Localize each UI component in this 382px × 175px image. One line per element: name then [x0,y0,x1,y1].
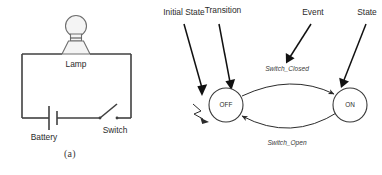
state-node-on-label: ON [345,101,355,108]
pointer-transition [219,24,235,90]
pointer-event [286,24,311,64]
state-node-on[interactable]: ON [333,88,367,122]
lamp-label: Lamp [66,59,87,69]
annotation-state-label: State [357,7,377,17]
pointer-state [339,24,366,88]
pointer-initial-state [184,24,207,96]
annotation-event-label: Event [302,7,324,17]
transition-label-switch-closed: Switch_Closed [265,65,309,72]
battery-symbol-icon [49,106,57,130]
battery-label: Battery [31,132,58,142]
state-machine-svg: Initial State Transition Event State OFF… [186,0,382,150]
switch-symbol-icon [99,104,119,119]
initial-state-squiggle-icon [193,104,209,124]
switch-label: Switch [103,125,128,135]
state-node-off-label: OFF [220,101,233,108]
figure-container: Lamp Battery Switch (a) [0,0,382,175]
circuit-diagram-panel: Lamp Battery Switch (a) [0,0,191,175]
transition-arc-on-to-off [242,112,338,128]
lamp-bulb-icon [62,16,90,55]
annotation-initial-state-label: Initial State [163,7,205,17]
caption-a: (a) [64,148,76,159]
state-node-off[interactable]: OFF [209,88,243,122]
annotation-transition-label: Transition [205,5,242,15]
transition-arc-off-to-on [242,84,334,96]
circuit-svg: Lamp Battery Switch [0,0,191,150]
transition-label-switch-open: Switch_Open [267,139,307,147]
state-machine-panel: Initial State Transition Event State OFF… [186,0,382,175]
